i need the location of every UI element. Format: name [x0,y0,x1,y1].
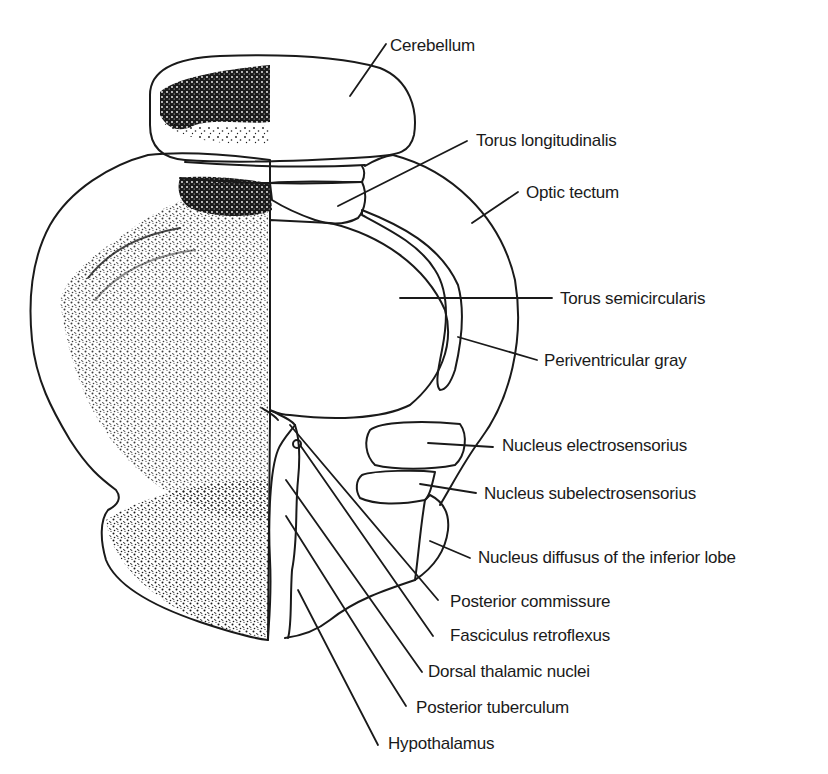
leader-nucleus-electrosensorius [428,443,493,447]
label-posterior-tuberculum: Posterior tuberculum [416,698,569,718]
leader-dorsal-thalamic-nuclei [286,480,422,672]
leader-periventricular-gray [458,337,537,360]
leader-posterior-commissure [290,425,438,600]
label-nucleus-electrosensorius: Nucleus electrosensorius [502,436,687,456]
brain-section-diagram: Cerebellum Torus longitudinalis Optic te… [0,0,828,774]
label-nucleus-diffusus: Nucleus diffusus of the inferior lobe [478,548,736,568]
left-stippled-half [31,153,272,640]
leader-posterior-tuberculum [286,516,406,706]
label-torus-longitudinalis: Torus longitudinalis [476,131,617,151]
label-hypothalamus: Hypothalamus [388,734,494,754]
label-periventricular-gray: Periventricular gray [544,351,686,371]
label-posterior-commissure: Posterior commissure [450,592,610,612]
leader-cerebellum [350,44,386,96]
leader-nucleus-diffusus [430,541,470,558]
label-torus-semicircularis: Torus semicircularis [560,289,705,309]
label-nucleus-subelectrosensorius: Nucleus subelectrosensorius [484,484,696,504]
label-dorsal-thalamic-nuclei: Dorsal thalamic nuclei [428,662,590,682]
label-fasciculus-retroflexus: Fasciculus retroflexus [450,626,610,646]
label-optic-tectum: Optic tectum [526,183,619,203]
diagram-drawing [0,0,828,774]
cerebellum-outline [150,55,415,161]
label-cerebellum: Cerebellum [390,36,475,56]
